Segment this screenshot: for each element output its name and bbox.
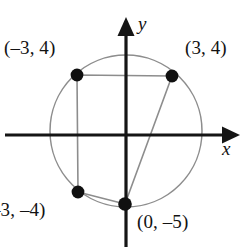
point-label-bottom-left: –3, –4) [0,200,46,219]
data-point-marker [72,186,85,199]
data-point-marker [166,70,179,83]
coordinate-figure: (–3, 4) (3, 4) –3, –4) (0, –5) y x [0,0,247,247]
point-label-bottom: (0, –5) [137,212,188,231]
data-point-marker [118,197,132,211]
data-point-marker [71,69,84,82]
x-axis-label: x [222,139,230,158]
point-label-top-right: (3, 4) [185,38,227,57]
point-label-top-left: (–3, 4) [4,38,55,57]
y-axis-label: y [138,14,146,33]
y-axis-arrowhead [118,17,135,36]
